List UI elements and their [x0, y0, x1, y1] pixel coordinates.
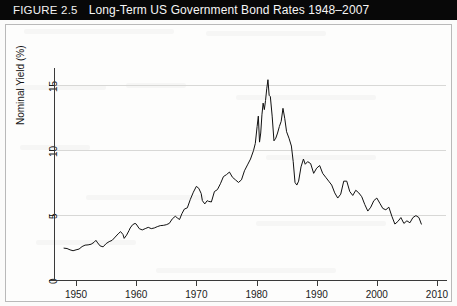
figure-caption-bar: FIGURE 2.5 Long-Term US Government Bond …: [0, 0, 457, 20]
figure-container: FIGURE 2.5 Long-Term US Government Bond …: [0, 0, 457, 306]
figure-frame: 051015 1950196019701980199020002010 Nomi…: [5, 24, 452, 302]
figure-title-label: Long-Term US Government Bond Rates 1948–…: [89, 3, 370, 17]
figure-number-label: FIGURE 2.5: [13, 4, 78, 16]
yield-series-plot: [6, 25, 452, 302]
nominal-yield-line: [64, 80, 421, 251]
